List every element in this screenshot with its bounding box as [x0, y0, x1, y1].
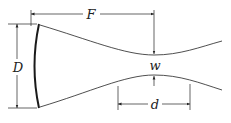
label-d: d: [151, 97, 159, 112]
waist-dimension: w: [149, 58, 160, 86]
depth-of-focus-dimension: d: [118, 84, 190, 112]
label-w: w: [149, 58, 160, 73]
beam-focus-diagram: F D w d: [0, 0, 231, 123]
mirror-surface: [35, 24, 40, 108]
beam-lower-edge: [40, 75, 222, 107]
focal-distance-dimension: F: [31, 7, 154, 54]
label-F: F: [85, 7, 96, 22]
beam-upper-edge: [40, 25, 222, 55]
label-D: D: [12, 60, 24, 75]
aperture-dimension: D: [8, 24, 37, 108]
